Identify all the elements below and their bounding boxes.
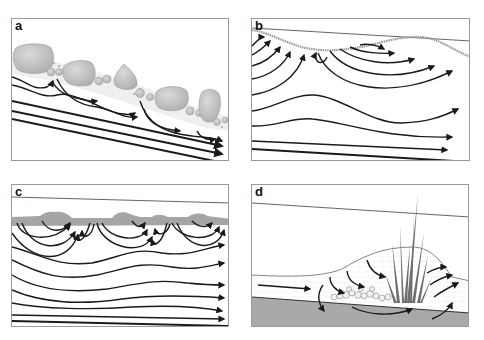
flow-downwelling-3	[340, 49, 414, 63]
deep-flow-3	[12, 119, 219, 161]
pebble	[95, 77, 103, 85]
water-surface	[252, 203, 469, 217]
panel-d-diagram	[252, 185, 469, 327]
flow-local-cell	[315, 53, 327, 63]
flow-deep-1	[252, 141, 447, 150]
panel-c-diagram	[12, 185, 229, 327]
panel-label-d: d	[255, 185, 263, 199]
flow-regional-1	[12, 245, 224, 264]
pebble	[56, 69, 63, 76]
panel-b-diagram	[252, 19, 470, 161]
panel-b: b	[251, 18, 470, 161]
flow-upwelling-3	[252, 47, 280, 66]
boulder-4	[155, 87, 189, 111]
flow-deep-2	[12, 321, 229, 326]
pebble	[103, 75, 111, 83]
flow-downwelling-2	[350, 47, 394, 53]
flow-deep-2	[252, 149, 470, 161]
panel-a: a	[11, 18, 229, 161]
water-surface	[252, 28, 470, 41]
flow-deep-1	[12, 315, 224, 319]
pebble	[47, 68, 55, 76]
panel-label-a: a	[15, 19, 22, 33]
panel-c: c	[11, 184, 229, 327]
flow-regional-3	[12, 275, 224, 291]
boulder-2	[63, 61, 96, 86]
flow-regional-2	[12, 260, 224, 277]
pebble	[186, 107, 194, 115]
flow-upwelling-5	[252, 55, 304, 95]
pebble	[136, 89, 145, 98]
panel-label-b: b	[255, 19, 263, 33]
pebble	[214, 119, 221, 126]
flow-downwelling-5	[318, 53, 452, 88]
pebble	[147, 94, 154, 101]
flow-regional-5	[12, 303, 222, 311]
panel-a-diagram	[12, 19, 229, 161]
flow-regional-4	[12, 290, 224, 302]
flow-upwelling-1	[252, 37, 264, 46]
hyporheic-cells	[12, 221, 224, 257]
flow-regional-1	[252, 95, 458, 123]
water-surface	[12, 197, 229, 203]
flow-downwelling-1	[360, 44, 384, 49]
boulder-3	[114, 64, 137, 90]
boulder-1	[13, 44, 53, 74]
panel-label-c: c	[15, 185, 22, 199]
panel-d: d	[251, 184, 469, 327]
pebble	[222, 117, 228, 123]
